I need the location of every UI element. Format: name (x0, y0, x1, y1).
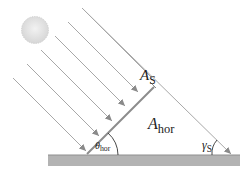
sun-icon (22, 17, 49, 44)
label-horizontal-area: Ahor (148, 116, 174, 135)
diagram-svg (0, 0, 252, 178)
gamma-arc (212, 140, 217, 155)
label-tilted-area: AS (140, 68, 156, 86)
label-sun-elevation-angle: γS (202, 139, 212, 154)
diagram-canvas: AS Ahor θhor γS (0, 0, 252, 178)
label-tilt-angle: θhor (95, 141, 110, 153)
ground (48, 155, 240, 166)
angle-arcs (108, 133, 217, 155)
